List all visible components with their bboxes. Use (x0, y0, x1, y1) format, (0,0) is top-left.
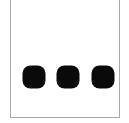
dot-mark (57, 66, 80, 89)
dot-row (11, 0, 121, 118)
dot-mark (23, 66, 46, 89)
bordered-panel (10, 0, 120, 118)
screenshot-canvas (0, 0, 129, 123)
dot-mark (92, 66, 115, 89)
